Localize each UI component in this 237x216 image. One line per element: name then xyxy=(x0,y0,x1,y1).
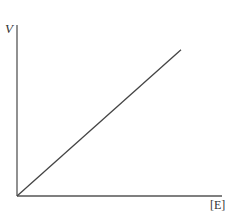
data-line xyxy=(17,50,181,196)
plot-area xyxy=(0,0,237,216)
chart: V [E] xyxy=(0,0,237,216)
x-axis-label: [E] xyxy=(210,198,225,213)
y-axis-label: V xyxy=(5,21,13,37)
